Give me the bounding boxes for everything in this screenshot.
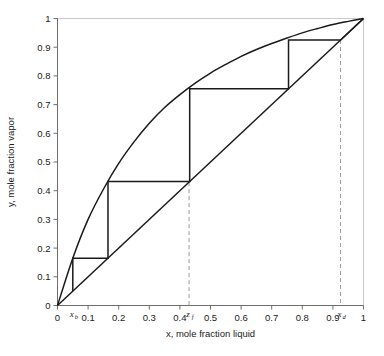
y-tick-label-8: 0.8 <box>37 70 50 81</box>
y-axis-ticks <box>54 19 58 306</box>
annotation-xb-subscript: b <box>75 313 79 320</box>
axes: 00.10.20.30.40.50.60.70.80.91 00.10.20.3… <box>37 13 366 323</box>
y-tick-label-4: 0.4 <box>37 185 50 196</box>
x-tick-label-4: 0.4 <box>173 312 186 323</box>
annotation-xb: xb <box>69 309 79 321</box>
y-axis-title: y, mole fraction vapor <box>5 117 16 207</box>
x-tick-label-0: 0 <box>55 312 60 323</box>
y-tick-label-0: 0 <box>45 300 50 311</box>
x-tick-label-8: 0.8 <box>296 312 309 323</box>
annotation-xd-subscript: d <box>342 313 346 320</box>
x-tick-label-1: 0.1 <box>81 312 94 323</box>
x-tick-label-2: 0.2 <box>112 312 125 323</box>
y-axis-tick-labels: 00.10.20.30.40.50.60.70.80.91 <box>37 13 50 311</box>
y-tick-label-7: 0.7 <box>37 99 50 110</box>
x-tick-label-3: 0.3 <box>143 312 156 323</box>
x-axis-tick-labels: 00.10.20.30.40.50.60.70.80.91 <box>55 312 366 323</box>
figure-container: 00.10.20.30.40.50.60.70.80.91 00.10.20.3… <box>0 0 384 356</box>
y-tick-label-2: 0.2 <box>37 243 50 254</box>
x-tick-label-5: 0.5 <box>204 312 217 323</box>
x-tick-label-7: 0.7 <box>265 312 278 323</box>
annotation-xb-label: x <box>69 309 74 319</box>
x-axis-ticks <box>58 306 364 310</box>
annotation-zf-label: z <box>185 309 190 319</box>
dashed-guide-lines <box>189 40 340 305</box>
45-degree-line <box>58 19 364 306</box>
x-tick-label-10: 1 <box>361 312 366 323</box>
data-layer <box>58 19 364 306</box>
x-tick-label-6: 0.6 <box>234 312 247 323</box>
annotation-zf: zf <box>185 309 194 321</box>
y-tick-label-9: 0.9 <box>37 42 50 53</box>
annotation-xd: xd <box>337 309 347 321</box>
y-tick-label-3: 0.3 <box>37 214 50 225</box>
y-tick-label-10: 1 <box>45 13 50 24</box>
y-tick-label-6: 0.6 <box>37 128 50 139</box>
annotation-xd-label: x <box>337 309 342 319</box>
y-tick-label-1: 0.1 <box>37 271 50 282</box>
x-axis-title: x, mole fraction liquid <box>166 328 255 339</box>
mccabe-thiele-chart: 00.10.20.30.40.50.60.70.80.91 00.10.20.3… <box>0 0 384 356</box>
annotation-zf-subscript: f <box>192 313 195 320</box>
y-tick-label-5: 0.5 <box>37 156 50 167</box>
